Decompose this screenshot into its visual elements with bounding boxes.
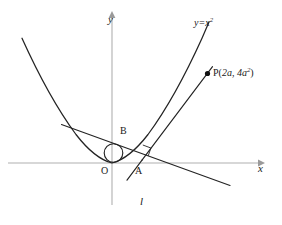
x-axis-label: x <box>258 163 263 174</box>
point-p-dot <box>205 71 210 76</box>
geometry-figure: y x y=x2 P(2a, 4a2) B O A l <box>0 0 282 225</box>
curve-equation-label: y=x2 <box>194 18 213 28</box>
figure-canvas <box>0 0 282 225</box>
inscribed-circle <box>104 144 123 163</box>
point-p-label: P(2a, 4a2) <box>213 68 254 78</box>
y-axis-label: y <box>108 14 113 25</box>
point-p-coord-x: 2a <box>222 67 232 78</box>
parabola-curve <box>22 22 209 163</box>
tangent-line-upper-segment <box>142 67 213 161</box>
line-l-label: l <box>140 196 143 207</box>
origin-label: O <box>101 166 108 176</box>
point-p-paren-close: ) <box>250 67 253 78</box>
curve-equation-base: y=x <box>194 17 210 28</box>
line-l <box>62 125 231 186</box>
point-a-label: A <box>135 166 142 176</box>
point-b-label: B <box>120 126 127 136</box>
point-p-coord-y-base: 4a <box>237 67 247 78</box>
curve-equation-exponent: 2 <box>210 16 213 23</box>
